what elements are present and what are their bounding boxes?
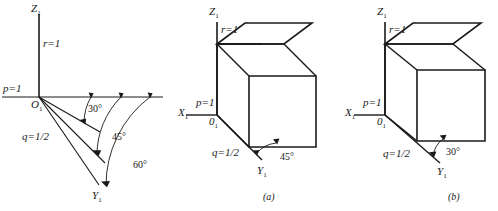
mid-p-scale-label: p=1 [196,97,214,108]
right-cube-edge-c [385,115,417,141]
mid-cube-edge-c [217,115,249,147]
left-arc-30-arrow-top [89,93,94,99]
mid-cube-edge-b [284,44,316,76]
mid-cube-front-face [249,76,316,147]
right-cube-edge-b [453,44,485,70]
left-z-axis-label: Z1 [31,3,41,17]
left-angle-45-label: 45° [112,132,126,142]
left-arc-60-arrow-end [101,181,110,187]
right-panel-caption: (b) [448,192,460,202]
mid-x-axis-label: X1 [178,107,188,121]
right-origin-label: 01 [377,116,386,130]
mid-r-scale-label: r=1 [221,24,238,35]
left-q-scale-label: q=1/2 [22,131,49,142]
right-y-axis-label: Y1 [437,166,447,180]
right-cube-edge-a [385,44,417,70]
mid-y-axis-label: Y1 [257,165,267,179]
left-p-scale-label: p=1 [3,83,21,94]
mid-panel-caption: (a) [263,192,275,202]
mid-q-scale-label: q=1/2 [212,147,239,158]
mid-z-axis-label: Z1 [209,6,219,20]
left-origin-label: O1 [31,99,42,113]
left-angle-30-label: 30° [88,104,102,114]
right-p-scale-label: p=1 [363,97,381,108]
mid-cube-edge-a [217,44,249,76]
right-angle-30-label: 30° [446,147,460,157]
left-r-scale-label: r=1 [43,38,60,49]
figure-vector-layer [0,0,498,211]
mid-arc-45 [256,143,276,154]
right-cube-front-face [417,70,485,141]
left-y-axis-label: Y1 [92,190,102,204]
left-angle-60-label: 60° [133,160,147,170]
right-z-axis-label: Z1 [377,6,387,20]
left-arc-30-arrow-end [79,118,86,124]
right-q-scale-label: q=1/2 [383,148,410,159]
figure-canvas: Z1 r=1 p=1 O1 q=1/2 Y1 30° 45° 60° Z1 r=… [0,0,498,211]
mid-angle-45-label: 45° [280,152,294,162]
right-r-scale-label: r=1 [389,24,406,35]
mid-origin-label: 01 [209,116,218,130]
left-arc-60-arrow-top [148,93,153,99]
right-x-axis-label: X1 [345,107,355,121]
left-arc-45-arrow-top [119,93,124,99]
